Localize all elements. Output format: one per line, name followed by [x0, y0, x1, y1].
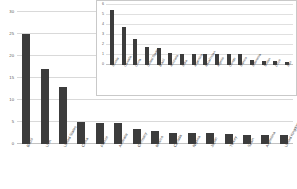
x-tick-label: USA	[45, 139, 52, 148]
bar	[41, 69, 49, 144]
inset-bar-chart: 0123456 RussiaCanadaChinaUnited StatesBr…	[96, 0, 297, 96]
gridline	[106, 4, 293, 5]
y-tick-label: 4	[102, 23, 104, 27]
y-tick-label: 0	[102, 63, 104, 67]
y-tick-label: 5	[102, 13, 104, 17]
main-y-axis: 051015202530	[0, 12, 15, 144]
y-tick-label: 2	[102, 43, 104, 47]
y-tick-label: 0	[12, 142, 14, 146]
y-tick-label: 20	[9, 54, 14, 58]
inset-y-axis: 0123456	[97, 5, 105, 65]
bar	[122, 27, 126, 65]
y-tick-label: 1	[102, 53, 104, 57]
gridline	[106, 14, 293, 15]
y-tick-label: 6	[102, 3, 104, 7]
gridline	[106, 24, 293, 25]
bar	[22, 34, 30, 144]
main-x-axis: BrazilUSAUnited StatesChinaFranceAustral…	[17, 144, 293, 189]
gridline	[106, 34, 293, 35]
y-tick-label: 10	[9, 98, 14, 102]
bar	[59, 87, 67, 144]
y-tick-label: 25	[9, 32, 14, 36]
bar	[110, 10, 114, 65]
y-tick-label: 3	[102, 33, 104, 37]
y-tick-label: 15	[9, 76, 14, 80]
inset-x-axis: RussiaCanadaChinaUnited StatesBrazilAust…	[106, 65, 293, 95]
y-tick-label: 5	[12, 120, 14, 124]
y-tick-label: 30	[9, 10, 14, 14]
x-tick-label: Iran	[287, 61, 293, 68]
